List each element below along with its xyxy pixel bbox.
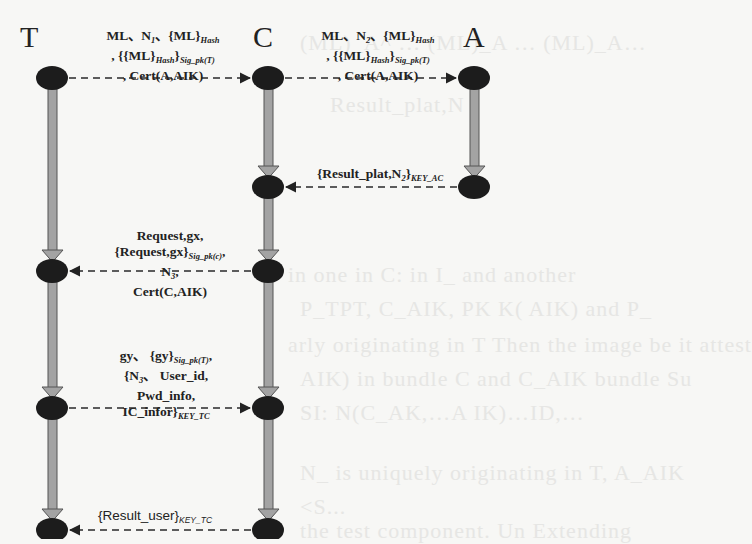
node-C-4 bbox=[252, 396, 284, 420]
message-3-label: {Result_plat,N2}KEY_AC bbox=[295, 166, 465, 186]
actor-A-label: A bbox=[463, 22, 485, 52]
node-C-2 bbox=[252, 175, 284, 199]
node-T-4 bbox=[36, 518, 68, 539]
message-4-label: Request,gx, {Request,gx}Sig_pk(c), N3, C… bbox=[90, 228, 250, 300]
node-C-1 bbox=[252, 66, 284, 90]
lifeline-C bbox=[252, 66, 284, 539]
node-T-3 bbox=[36, 396, 68, 420]
node-T-1 bbox=[36, 66, 68, 90]
actor-T-label: T bbox=[20, 22, 38, 52]
message-arrows bbox=[69, 78, 457, 530]
node-C-3 bbox=[252, 259, 284, 283]
message-5-label: gy、 {gy}Sig_pk(T), {N3、 User_id, Pwd_inf… bbox=[86, 348, 246, 424]
node-C-5 bbox=[252, 518, 284, 539]
lifeline-T bbox=[36, 66, 68, 539]
actor-C-label: C bbox=[253, 22, 273, 52]
node-T-2 bbox=[36, 259, 68, 283]
message-2-label: ML、N2、{ML}Hash , {{ML}Hash}Sig_pk(T) , C… bbox=[298, 28, 458, 84]
message-6-label: {Result_user}KEY_TC bbox=[75, 508, 235, 528]
node-A-1 bbox=[458, 66, 490, 90]
message-1-label: ML、N1、{ML}Hash , {{ML}Hash}Sig_pk(T) , C… bbox=[78, 28, 248, 84]
